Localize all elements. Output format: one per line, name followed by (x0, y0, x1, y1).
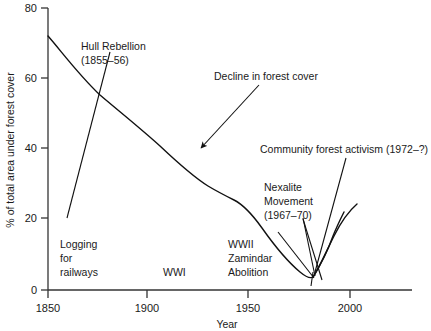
annotation-wwii-line1: WWII (228, 238, 254, 250)
annotation-community-forest-activism: Community forest activism (1972–?) (260, 143, 428, 155)
nexalite-leader-line-b (303, 219, 322, 280)
annotation-nexalite-line3: (1967–70) (264, 209, 312, 221)
annotation-hull-rebellion-line2: (1855–56) (81, 54, 129, 66)
x-axis-title: Year (216, 318, 238, 330)
annotation-logging-line3: railways (60, 266, 98, 278)
hull-rebellion-leader-line (67, 52, 110, 218)
y-axis-title: % of total area under forest cover (4, 72, 16, 228)
annotation-logging-line2: for (60, 252, 73, 264)
annotation-logging-line1: Logging (60, 238, 98, 250)
annotation-nexalite-line1: Nexalite (264, 181, 302, 193)
annotation-nexalite-line2: Movement (264, 195, 313, 207)
y-tick-label-40: 40 (25, 142, 37, 154)
annotation-wwi: WWI (163, 266, 186, 278)
decline-arrow (201, 85, 259, 148)
x-tick-label-2000: 2000 (338, 302, 362, 314)
chart-canvas: 80 60 40 20 0 1850 1900 1950 2000 Year %… (0, 0, 431, 331)
forest-cover-chart: 80 60 40 20 0 1850 1900 1950 2000 Year %… (0, 0, 431, 331)
y-tick-label-20: 20 (25, 212, 37, 224)
annotation-hull-rebellion-line1: Hull Rebellion (81, 40, 146, 52)
y-tick-label-60: 60 (25, 72, 37, 84)
nexalite-leader-line-a (303, 218, 315, 276)
annotation-wwii-line2: Zamindar (228, 252, 273, 264)
x-tick-label-1850: 1850 (36, 302, 60, 314)
x-tick-label-1900: 1900 (135, 302, 159, 314)
annotation-wwii-line3: Abolition (228, 266, 268, 278)
x-tick-label-1950: 1950 (236, 302, 260, 314)
y-tick-label-0: 0 (31, 284, 37, 296)
annotation-decline-in-forest-cover: Decline in forest cover (214, 70, 318, 82)
y-tick-label-80: 80 (25, 2, 37, 14)
community-activism-leader-line (315, 158, 346, 272)
